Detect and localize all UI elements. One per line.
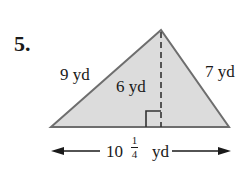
problem-figure: 5. 9 yd 7 yd 6 yd 10 1 4 yd <box>0 0 250 175</box>
base-whole: 10 <box>106 143 123 160</box>
fraction-numerator: 1 <box>132 135 138 146</box>
fraction-denominator: 4 <box>132 149 138 160</box>
height-label: 6 yd <box>116 78 146 95</box>
base-fraction: 1 4 <box>131 135 138 160</box>
right-side-label: 7 yd <box>205 63 235 80</box>
base-unit: yd <box>152 143 169 160</box>
arrowhead-right-icon <box>218 147 231 155</box>
left-side-label: 9 yd <box>60 66 90 83</box>
arrowhead-left-icon <box>51 147 64 155</box>
